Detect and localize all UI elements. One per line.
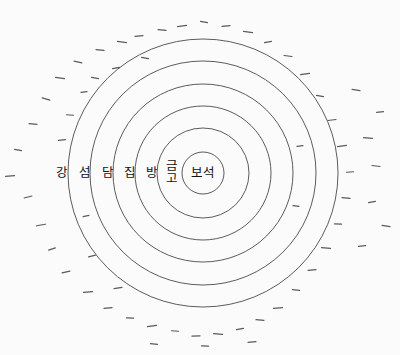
speckle-mark xyxy=(84,292,93,293)
speckle-mark xyxy=(96,50,104,51)
speckle-mark xyxy=(178,25,187,26)
label-wall: 담 xyxy=(102,167,114,180)
speckle-mark xyxy=(24,196,32,198)
speckle-mark xyxy=(49,248,56,250)
label-island: 섬 xyxy=(79,167,91,180)
speckle-mark xyxy=(308,270,316,271)
speckle-mark xyxy=(377,112,384,113)
speckle-mark xyxy=(317,95,324,96)
speckle-mark xyxy=(293,206,299,207)
speckle-mark xyxy=(29,124,37,125)
speckle-mark xyxy=(256,320,264,321)
speckle-mark xyxy=(42,98,50,100)
speckle-mark xyxy=(322,248,331,249)
speckle-mark xyxy=(56,77,65,78)
speckle-mark xyxy=(382,225,390,226)
speckle-mark xyxy=(338,145,347,146)
label-safe: 금고 xyxy=(166,160,178,186)
speckle-mark xyxy=(297,146,303,147)
speckle-mark xyxy=(284,56,292,57)
speckle-mark xyxy=(237,328,244,329)
speckle-mark xyxy=(104,308,112,309)
speckle-mark xyxy=(135,36,143,37)
speckle-mark xyxy=(222,26,230,27)
speckle-mark xyxy=(158,30,166,31)
label-jewel: 보석 xyxy=(191,167,216,180)
label-river: 강 xyxy=(56,167,68,180)
speckle-mark xyxy=(83,215,89,216)
speckle-mark xyxy=(293,290,300,291)
speckle-mark xyxy=(118,41,127,42)
speckle-mark xyxy=(92,77,99,78)
speckle-mark xyxy=(62,271,70,273)
speckle-mark xyxy=(151,344,158,345)
speckle-mark xyxy=(148,325,157,326)
speckle-mark xyxy=(265,41,272,42)
label-safe-line1: 금 xyxy=(166,160,178,173)
speckle-mark xyxy=(369,201,376,202)
speckle-mark xyxy=(342,198,350,199)
diagram-canvas: 강섬담집방금고보석 xyxy=(0,0,400,355)
speckle-mark xyxy=(81,92,87,93)
speckle-mark xyxy=(74,61,82,63)
speckle-mark xyxy=(244,31,253,32)
label-room: 방 xyxy=(146,167,158,180)
label-house: 집 xyxy=(124,167,136,180)
speckle-mark xyxy=(142,57,149,58)
speckle-mark xyxy=(89,255,96,257)
speckle-mark xyxy=(352,89,360,90)
speckle-mark xyxy=(372,166,380,167)
label-safe-line2: 고 xyxy=(166,173,178,186)
speckle-mark xyxy=(6,176,15,177)
speckle-mark xyxy=(301,73,310,74)
speckle-mark xyxy=(274,308,283,309)
background-speckle-layer xyxy=(6,21,390,346)
speckle-mark xyxy=(114,287,122,288)
speckle-mark xyxy=(364,138,373,139)
speckle-mark xyxy=(328,120,336,121)
speckle-mark xyxy=(214,334,223,335)
speckle-mark xyxy=(201,21,208,22)
speckle-mark xyxy=(359,246,366,247)
speckle-mark xyxy=(59,140,66,141)
speckle-mark xyxy=(37,224,46,226)
speckle-mark xyxy=(15,149,22,150)
speckle-mark xyxy=(248,342,256,343)
